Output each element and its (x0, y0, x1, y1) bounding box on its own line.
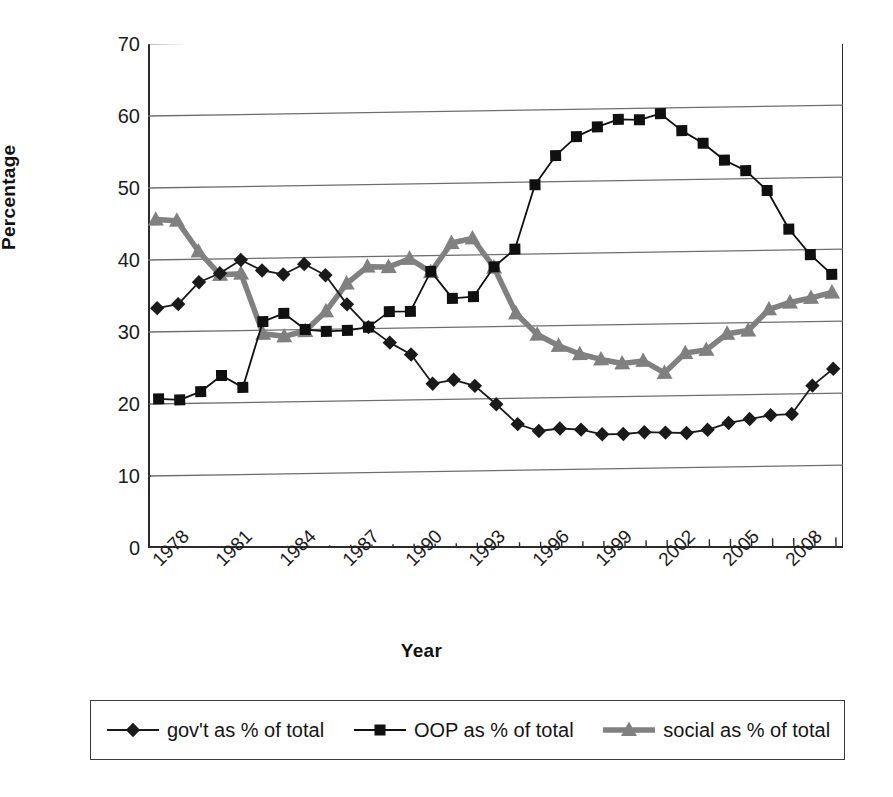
data-point-marker (592, 121, 603, 132)
y-axis-tick-labels: 706050403020100 (96, 44, 140, 548)
y-axis-tick-label: 50 (100, 178, 140, 198)
data-point-marker (342, 325, 353, 336)
y-axis-tick-label: 60 (100, 106, 140, 126)
data-point-marker (740, 165, 751, 176)
data-point-marker (613, 114, 624, 125)
legend-marker-glyph (374, 725, 385, 736)
data-point-marker (174, 394, 185, 405)
x-axis-title-text: Year (401, 640, 442, 661)
gridline (148, 177, 843, 188)
data-point-marker (257, 316, 268, 327)
data-point-marker (595, 427, 610, 442)
data-point-marker (150, 301, 165, 316)
data-point-marker (405, 306, 416, 317)
legend-marker-glyph (126, 723, 140, 737)
data-point-marker (321, 326, 332, 337)
data-point-marker (404, 347, 419, 362)
gridline (148, 249, 843, 260)
legend-item[interactable]: gov't as % of total (105, 719, 324, 742)
data-point-marker (447, 293, 458, 304)
y-axis-tick-label: 40 (100, 250, 140, 270)
data-point-marker (318, 268, 333, 283)
data-point-marker (382, 335, 397, 350)
data-point-marker (153, 393, 164, 404)
data-point-marker (783, 223, 794, 234)
y-axis-tick-label: 70 (100, 34, 140, 54)
y-axis-tick-label: 10 (100, 466, 140, 486)
data-point-marker (826, 269, 837, 280)
data-point-marker (655, 108, 666, 119)
line-chart: 706050403020100 Percentage 1978198119841… (0, 0, 893, 797)
data-point-marker (784, 407, 799, 422)
data-point-marker (550, 150, 561, 161)
data-point-marker (763, 408, 778, 423)
data-point-marker (553, 421, 568, 436)
data-point-marker (425, 266, 436, 277)
data-point-marker (616, 427, 631, 442)
plot-area (148, 44, 843, 548)
data-point-marker (532, 424, 547, 439)
x-axis-tick-labels: 1978198119841987199019931996199920022005… (148, 556, 848, 626)
triangle-marker-icon (601, 720, 657, 740)
data-point-marker (698, 138, 709, 149)
data-point-marker (234, 253, 249, 268)
series-square (149, 105, 839, 405)
data-point-marker (216, 370, 227, 381)
data-point-marker (425, 376, 440, 391)
data-point-marker (384, 306, 395, 317)
gridline (148, 465, 843, 476)
legend-item[interactable]: OOP as % of total (352, 719, 574, 742)
diamond-marker-icon (105, 720, 161, 740)
data-point-marker (721, 416, 736, 431)
data-point-marker (278, 308, 289, 319)
data-point-marker (658, 425, 673, 440)
data-point-marker (363, 322, 374, 333)
data-point-marker (195, 386, 206, 397)
data-point-marker (237, 382, 248, 393)
series-line (154, 111, 833, 400)
data-point-marker (488, 261, 499, 272)
square-marker-icon (352, 720, 408, 740)
y-axis-tick-label: 0 (100, 538, 140, 558)
data-point-marker (700, 422, 715, 437)
data-point-marker (637, 425, 652, 440)
legend-label: social as % of total (663, 719, 830, 742)
data-point-marker (679, 426, 694, 441)
data-point-marker (401, 250, 417, 265)
data-point-marker (676, 125, 687, 136)
data-point-marker (297, 257, 312, 272)
gridline (148, 105, 843, 116)
data-point-marker (300, 324, 311, 335)
data-point-marker (805, 249, 816, 260)
series-line (156, 209, 833, 381)
data-point-marker (571, 131, 582, 142)
x-axis-title: Year (0, 640, 893, 662)
data-point-marker (719, 155, 730, 166)
data-point-marker (509, 244, 520, 255)
chart-legend: gov't as % of totalOOP as % of totalsoci… (90, 700, 845, 760)
data-point-marker (255, 263, 270, 278)
series-line (156, 251, 834, 442)
y-axis-tick-label: 20 (100, 394, 140, 414)
y-axis-tick-label: 30 (100, 322, 140, 342)
data-point-marker (529, 179, 540, 190)
data-point-marker (574, 422, 589, 437)
y-axis-title: Percentage (0, 145, 20, 250)
data-point-marker (742, 412, 757, 427)
data-point-marker (276, 267, 291, 282)
data-point-marker (762, 185, 773, 196)
data-point-marker (468, 291, 479, 302)
data-point-marker (446, 372, 461, 387)
data-point-marker (634, 114, 645, 125)
legend-label: gov't as % of total (167, 719, 324, 742)
legend-label: OOP as % of total (414, 719, 574, 742)
legend-item[interactable]: social as % of total (601, 719, 830, 742)
series-layer (148, 44, 843, 548)
